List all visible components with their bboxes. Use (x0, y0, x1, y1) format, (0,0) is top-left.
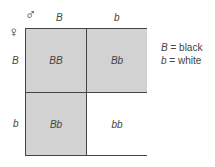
female-allele-1: B (12, 55, 19, 66)
cell-BB: BB (26, 29, 87, 93)
legend: B = black b = white (161, 41, 202, 67)
legend-allele: B (161, 42, 168, 53)
female-allele-2: b (13, 118, 19, 129)
punnett-grid: BB Bb Bb bb (25, 28, 147, 156)
cell-Bb-bottom: Bb (26, 93, 87, 155)
legend-item-black: B = black (161, 41, 202, 54)
legend-item-white: b = white (161, 54, 202, 67)
legend-meaning: = black (170, 42, 202, 53)
male-allele-2: b (114, 12, 120, 23)
male-symbol-icon: ♂ (25, 6, 36, 21)
legend-allele: b (161, 55, 167, 66)
cell-Bb-top: Bb (87, 29, 147, 93)
cell-bb: bb (87, 93, 147, 155)
female-symbol-icon: ♀ (8, 24, 19, 39)
legend-meaning: = white (169, 55, 201, 66)
male-allele-1: B (56, 12, 63, 23)
